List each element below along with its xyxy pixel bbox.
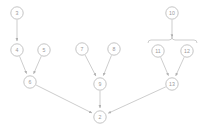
brace-layer <box>148 37 197 43</box>
node-label-5: 5 <box>43 47 46 53</box>
graph-edge-n6-to-n2 <box>36 85 92 113</box>
graph-edge-n4-to-n6 <box>20 56 27 73</box>
node-label-10: 10 <box>169 10 175 16</box>
node-label-4: 4 <box>16 47 19 53</box>
graph-node-11[interactable]: 11 <box>152 45 164 57</box>
graph-node-10[interactable]: 10 <box>166 7 178 19</box>
node-label-2: 2 <box>99 114 102 120</box>
node-label-3: 3 <box>16 10 19 16</box>
graph-edge-n7-to-n9 <box>85 55 96 76</box>
graph-node-2[interactable]: 2 <box>94 111 106 123</box>
edge-layer <box>17 20 184 113</box>
graph-node-3[interactable]: 3 <box>11 7 23 19</box>
graph-node-6[interactable]: 6 <box>24 76 36 88</box>
graph-node-8[interactable]: 8 <box>108 43 120 55</box>
node-label-9: 9 <box>99 81 102 87</box>
node-label-12: 12 <box>184 48 190 54</box>
node-label-7: 7 <box>81 46 84 52</box>
graph-node-12[interactable]: 12 <box>181 45 193 57</box>
node-label-6: 6 <box>29 79 32 85</box>
graph-node-13[interactable]: 13 <box>166 78 178 90</box>
graph-edge-n8-to-n9 <box>103 55 111 75</box>
graph-node-4[interactable]: 4 <box>11 44 23 56</box>
graph-node-5[interactable]: 5 <box>38 44 50 56</box>
graph-edge-n11-to-n13 <box>161 57 169 75</box>
graph-canvas: 3456789101112132 <box>0 0 201 130</box>
graph-node-7[interactable]: 7 <box>76 43 88 55</box>
group-brace <box>148 37 197 43</box>
graph-edge-n12-to-n13 <box>176 57 184 76</box>
node-label-11: 11 <box>155 48 160 54</box>
node-layer: 3456789101112132 <box>11 7 193 123</box>
graph-edge-n13-to-n2 <box>108 87 166 113</box>
node-label-13: 13 <box>169 81 175 87</box>
graph-diagram: 3456789101112132 <box>0 0 201 130</box>
graph-node-9[interactable]: 9 <box>94 78 106 90</box>
graph-edge-n5-to-n6 <box>34 56 42 74</box>
node-label-8: 8 <box>113 46 116 52</box>
